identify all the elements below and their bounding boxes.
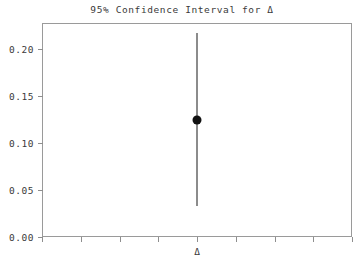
x-axis-tick-mark (158, 237, 159, 242)
y-axis-tick-mark (38, 96, 43, 97)
x-axis-tick-mark (42, 237, 43, 242)
x-axis-tick-label: Δ (194, 246, 200, 257)
x-axis-tick-mark (236, 237, 237, 242)
y-axis-tick-mark (38, 143, 43, 144)
y-axis-tick-label: 0.00 (0, 232, 34, 243)
y-axis-tick-mark (38, 190, 43, 191)
chart-title: 95% Confidence Interval for Δ (0, 4, 364, 15)
point-estimate-marker (193, 115, 202, 124)
x-axis-tick-mark (313, 237, 314, 242)
y-axis-tick-label: 0.20 (0, 44, 34, 55)
x-axis-tick-mark (197, 237, 198, 242)
y-axis-tick-mark (38, 49, 43, 50)
x-axis-tick-mark (81, 237, 82, 242)
x-axis-tick-mark (352, 237, 353, 242)
x-axis-tick-mark (120, 237, 121, 242)
x-axis-tick-mark (275, 237, 276, 242)
y-axis-tick-label: 0.15 (0, 91, 34, 102)
y-axis-tick-label: 0.10 (0, 138, 34, 149)
y-axis-tick-label: 0.05 (0, 185, 34, 196)
confidence-interval-chart: 95% Confidence Interval for Δ 0.000.050.… (0, 0, 364, 265)
